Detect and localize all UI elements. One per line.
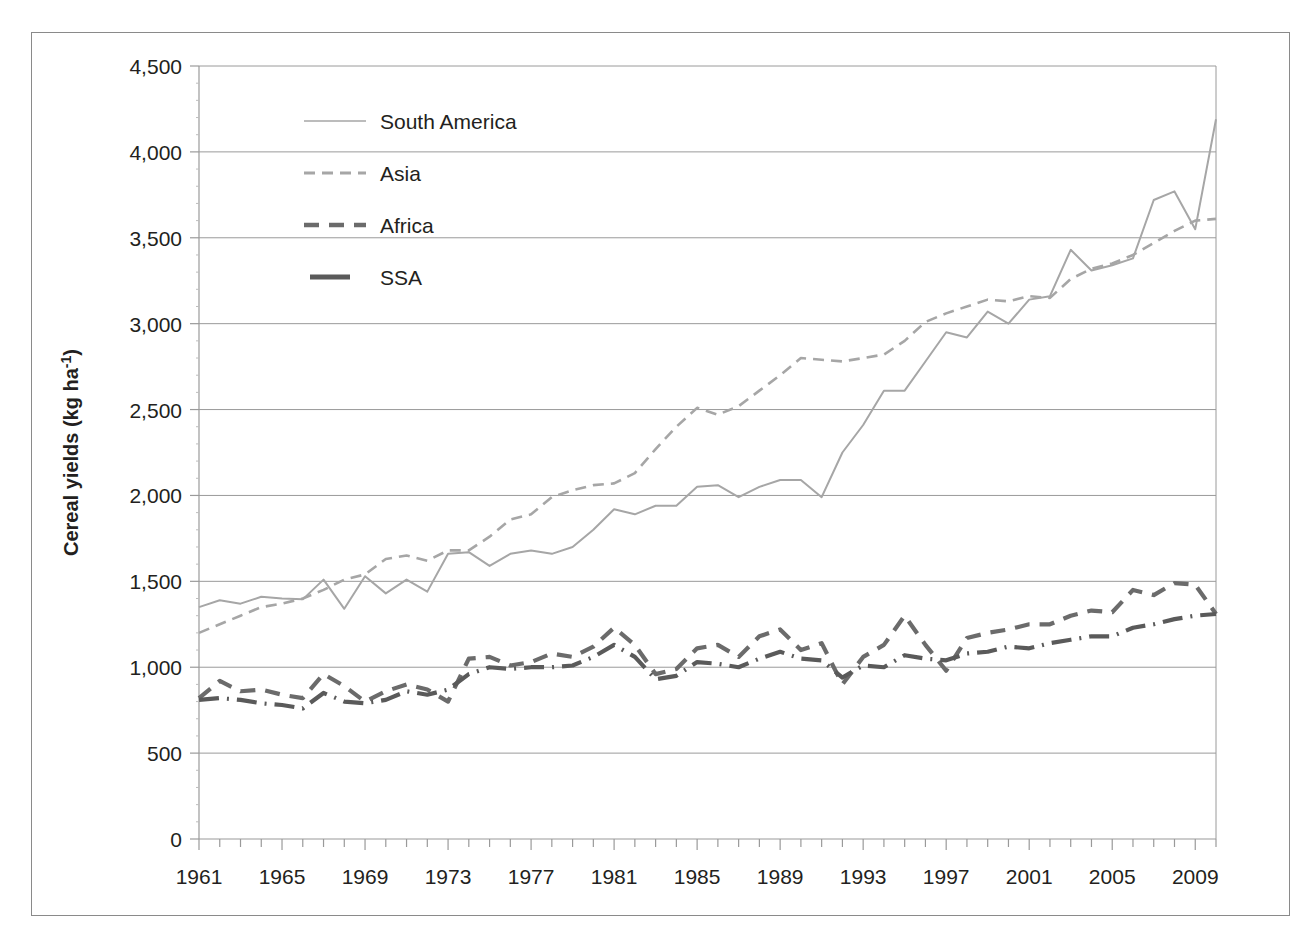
y-tick-label: 500 bbox=[147, 742, 182, 765]
x-tick-label: 1977 bbox=[508, 865, 555, 888]
x-tick-label: 1961 bbox=[176, 865, 223, 888]
gridlines bbox=[199, 66, 1216, 753]
y-axis-title: Cereal yields (kg ha-1) bbox=[58, 349, 82, 556]
y-tick-label: 4,000 bbox=[129, 141, 182, 164]
x-tick-label: 1985 bbox=[674, 865, 721, 888]
y-tick-label: 3,000 bbox=[129, 313, 182, 336]
legend-label: Asia bbox=[380, 162, 421, 185]
x-tick-label: 1997 bbox=[923, 865, 970, 888]
y-tick-label: 2,000 bbox=[129, 484, 182, 507]
legend-label: Africa bbox=[380, 214, 434, 237]
cereal-yields-line-chart: 05001,0001,5002,0002,5003,0003,5004,0004… bbox=[32, 33, 1289, 915]
y-axis-title-group: Cereal yields (kg ha-1) bbox=[58, 349, 82, 556]
y-tick-label: 1,000 bbox=[129, 656, 182, 679]
chart-frame: 05001,0001,5002,0002,5003,0003,5004,0004… bbox=[31, 32, 1290, 916]
x-tick-label: 1981 bbox=[591, 865, 638, 888]
data-series-layer bbox=[199, 119, 1216, 708]
y-axis-line bbox=[196, 66, 199, 839]
series-line-asia bbox=[199, 219, 1216, 633]
x-tick-label: 1965 bbox=[259, 865, 306, 888]
x-tick-label: 2009 bbox=[1172, 865, 1219, 888]
y-axis-title-superscript: -1 bbox=[58, 355, 74, 368]
y-tick-label: 0 bbox=[170, 828, 182, 851]
chart-legend: South AmericaAsiaAfricaSSA bbox=[304, 110, 517, 289]
x-tick-label: 2005 bbox=[1089, 865, 1136, 888]
y-tick-label: 4,500 bbox=[129, 55, 182, 78]
legend-label: SSA bbox=[380, 266, 422, 289]
x-tick-label: 1969 bbox=[342, 865, 389, 888]
y-axis-title-main: Cereal yields (kg ha bbox=[60, 367, 82, 556]
y-tick-label: 1,500 bbox=[129, 570, 182, 593]
y-tick-label: 2,500 bbox=[129, 399, 182, 422]
y-axis-ticks bbox=[190, 66, 199, 839]
y-axis-title-tail: ) bbox=[60, 349, 82, 356]
legend-label: South America bbox=[380, 110, 517, 133]
x-tick-label: 2001 bbox=[1006, 865, 1053, 888]
x-tick-label: 1989 bbox=[757, 865, 804, 888]
series-line-ssa bbox=[199, 614, 1216, 708]
series-line-south-america bbox=[199, 119, 1216, 609]
x-axis-tick-labels: 1961196519691973197719811985198919931997… bbox=[176, 865, 1219, 888]
y-tick-label: 3,500 bbox=[129, 227, 182, 250]
x-tick-label: 1993 bbox=[840, 865, 887, 888]
x-tick-label: 1973 bbox=[425, 865, 472, 888]
y-axis-title-text: Cereal yields (kg ha-1) bbox=[58, 349, 82, 556]
y-axis-tick-labels: 05001,0001,5002,0002,5003,0003,5004,0004… bbox=[129, 55, 182, 851]
x-axis-ticks bbox=[199, 66, 1216, 850]
